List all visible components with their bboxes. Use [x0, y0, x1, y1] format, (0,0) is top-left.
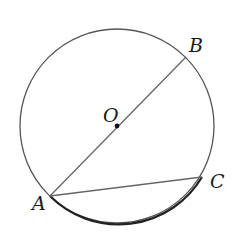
label-o: O — [103, 104, 119, 126]
label-c: C — [210, 170, 225, 192]
label-b: B — [188, 34, 203, 56]
segment-ac — [50, 177, 202, 196]
label-a: A — [30, 192, 46, 214]
geometry-diagram: O A B C — [0, 0, 243, 242]
